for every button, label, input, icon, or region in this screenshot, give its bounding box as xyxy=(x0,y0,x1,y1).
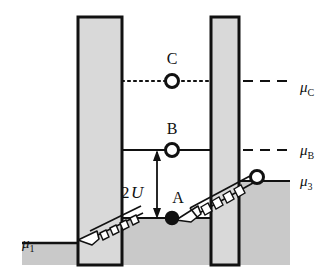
level-lines-group xyxy=(122,81,292,150)
muB-sub: B xyxy=(308,150,315,161)
label-state-C: C xyxy=(167,50,178,67)
state-marker-C xyxy=(166,75,179,88)
coupling-annotation-arrow xyxy=(153,150,161,219)
sea-central-well xyxy=(122,218,211,265)
diagram-canvas: C B A 2U μ1 μ3 μB μC xyxy=(0,0,335,269)
muC-sub: C xyxy=(308,87,315,98)
state-marker-B xyxy=(166,144,179,157)
mu3-sub: 3 xyxy=(308,181,313,192)
electron-sea-group xyxy=(22,181,290,265)
coupling-arrow-head-up xyxy=(153,150,161,161)
energy-level-diagram: C B A 2U μ1 μ3 μB μC xyxy=(0,0,335,269)
label-muB: μB xyxy=(299,142,315,161)
label-state-B: B xyxy=(167,120,178,137)
label-mu3: μ3 xyxy=(299,173,313,192)
label-state-A: A xyxy=(172,189,184,206)
label-muC: μC xyxy=(299,79,315,98)
coupling-prefix: 2 xyxy=(121,183,130,202)
barrier-right xyxy=(211,17,239,265)
label-coupling-2U: 2U xyxy=(121,183,145,202)
sea-right-lead xyxy=(239,181,290,265)
coupling-symbol: U xyxy=(131,183,145,202)
state-marker-A xyxy=(166,212,179,225)
label-mu1: μ1 xyxy=(21,235,35,254)
mu1-sub: 1 xyxy=(30,243,35,254)
state-marker-right-lead xyxy=(251,171,264,184)
